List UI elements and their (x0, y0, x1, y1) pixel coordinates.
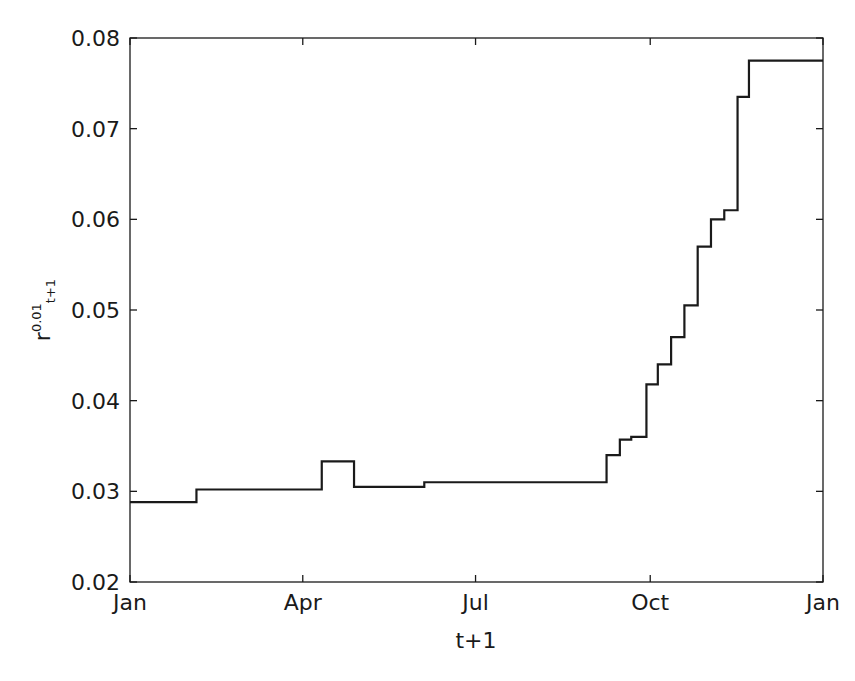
y-tick-label: 0.06 (62, 207, 120, 232)
y-axis-title-superscript: 0.01 (29, 303, 44, 332)
y-tick-label: 0.02 (62, 570, 120, 595)
x-tick-label: Apr (284, 590, 322, 615)
x-tick-label: Jan (113, 590, 147, 615)
y-axis-title: r0.01t+1 (30, 279, 55, 341)
y-axis-title-base: r (30, 332, 55, 341)
y-axis-title-subscript: t+1 (43, 279, 58, 303)
y-tick-label: 0.04 (62, 388, 120, 413)
data-series-line (130, 61, 823, 503)
y-tick-label: 0.03 (62, 479, 120, 504)
chart-plot-area (0, 0, 855, 681)
figure-canvas: 0.020.030.040.050.060.070.08 JanAprJulOc… (0, 0, 855, 681)
x-tick-label: Oct (631, 590, 669, 615)
y-tick-label: 0.08 (62, 26, 120, 51)
x-tick-label: Jul (462, 590, 489, 615)
axes-box (130, 38, 823, 582)
y-tick-label: 0.05 (62, 298, 120, 323)
y-tick-label: 0.07 (62, 116, 120, 141)
axis-ticks (130, 38, 823, 582)
x-axis-title: t+1 (455, 628, 496, 653)
x-tick-label: Jan (806, 590, 840, 615)
